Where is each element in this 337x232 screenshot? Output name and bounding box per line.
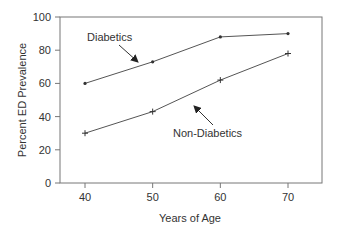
y-tick-label: 80 bbox=[39, 44, 51, 56]
x-tick-label: 40 bbox=[79, 191, 91, 203]
y-tick-label: 0 bbox=[45, 177, 51, 189]
plus-marker-icon bbox=[217, 77, 223, 83]
dot-marker-icon bbox=[286, 32, 289, 35]
x-axis: 40506070 bbox=[79, 183, 294, 203]
dot-marker-icon bbox=[83, 82, 86, 85]
x-axis-label: Years of Age bbox=[159, 212, 221, 224]
plus-marker-icon bbox=[285, 51, 291, 57]
x-tick-label: 70 bbox=[282, 191, 294, 203]
y-tick-label: 60 bbox=[39, 77, 51, 89]
y-tick-label: 40 bbox=[39, 111, 51, 123]
arrow-icon bbox=[119, 45, 138, 62]
plus-marker-icon bbox=[150, 109, 156, 115]
y-axis: 020406080100 bbox=[33, 11, 60, 189]
x-tick-label: 50 bbox=[147, 191, 159, 203]
y-tick-label: 100 bbox=[33, 11, 51, 23]
plus-marker-icon bbox=[82, 130, 88, 136]
dot-marker-icon bbox=[151, 60, 154, 63]
y-axis-label: Percent ED Prevalence bbox=[16, 43, 28, 157]
y-tick-label: 20 bbox=[39, 144, 51, 156]
dot-marker-icon bbox=[219, 35, 222, 38]
series-lines bbox=[82, 32, 291, 136]
x-tick-label: 60 bbox=[214, 191, 226, 203]
annotations: DiabeticsNon-Diabetics bbox=[87, 31, 243, 139]
arrow-icon bbox=[194, 106, 213, 125]
annotation-diabetics: Diabetics bbox=[87, 31, 133, 43]
annotation-non-diabetics: Non-Diabetics bbox=[173, 127, 243, 139]
series-line-non-diabetics bbox=[85, 54, 288, 134]
line-chart: 020406080100 40506070 DiabeticsNon-Diabe… bbox=[0, 0, 337, 232]
